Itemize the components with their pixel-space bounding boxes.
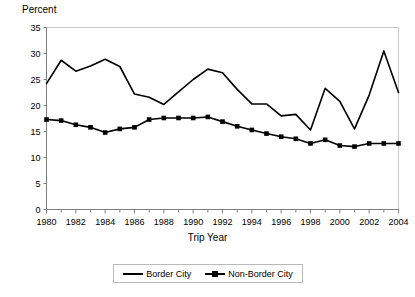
x-tick-label: 1998 bbox=[300, 217, 320, 227]
data-point-marker bbox=[103, 130, 108, 135]
x-axis-title: Trip Year bbox=[0, 232, 415, 243]
data-point-marker bbox=[74, 122, 79, 127]
y-tick-label: 15 bbox=[30, 127, 40, 137]
data-point-marker bbox=[118, 127, 123, 132]
x-tick-label: 2002 bbox=[359, 217, 379, 227]
x-tick-label: 1980 bbox=[36, 217, 56, 227]
x-tick-label: 1992 bbox=[212, 217, 232, 227]
y-tick-label: 10 bbox=[30, 153, 40, 163]
data-series-group bbox=[44, 51, 401, 149]
y-tick-label: 30 bbox=[30, 49, 40, 59]
data-point-marker bbox=[44, 117, 49, 122]
data-point-marker bbox=[264, 131, 269, 136]
legend-line-icon bbox=[123, 269, 143, 278]
series-line-border-city bbox=[47, 51, 399, 130]
data-point-marker bbox=[59, 118, 64, 123]
y-tick-label: 20 bbox=[30, 101, 40, 111]
y-tick-label: 0 bbox=[35, 205, 40, 215]
legend-item-non-border-city: Non-Border City bbox=[205, 269, 293, 279]
x-tick-label: 2000 bbox=[330, 217, 350, 227]
legend-item-border-city: Border City bbox=[123, 269, 191, 279]
y-tick-label: 5 bbox=[35, 179, 40, 189]
x-tick-label: 1982 bbox=[66, 217, 86, 227]
data-point-marker bbox=[250, 128, 255, 133]
x-tick-label: 2004 bbox=[388, 217, 408, 227]
data-point-marker bbox=[235, 124, 240, 129]
data-point-marker bbox=[206, 115, 211, 120]
data-point-marker bbox=[191, 116, 196, 121]
y-tick-label: 35 bbox=[30, 23, 40, 33]
x-tick-label: 1984 bbox=[95, 217, 115, 227]
gridlines-group bbox=[47, 28, 399, 210]
legend-label-non-border-city: Non-Border City bbox=[228, 269, 293, 279]
y-tick-label: 25 bbox=[30, 75, 40, 85]
x-tick-label: 1994 bbox=[242, 217, 262, 227]
data-point-marker bbox=[396, 141, 401, 146]
data-point-marker bbox=[147, 117, 152, 122]
data-point-marker bbox=[176, 116, 181, 121]
chart-container: Percent 05101520253035 19801982198419861… bbox=[0, 0, 415, 297]
x-tick-label: 1986 bbox=[124, 217, 144, 227]
data-point-marker bbox=[382, 141, 387, 146]
legend-line-marker-icon bbox=[205, 269, 225, 278]
x-tick-label: 1990 bbox=[183, 217, 203, 227]
data-point-marker bbox=[308, 141, 313, 146]
data-point-marker bbox=[88, 125, 93, 130]
chart-legend: Border City Non-Border City bbox=[113, 264, 303, 283]
y-axis-ticks: 05101520253035 bbox=[30, 23, 46, 215]
legend-label-border-city: Border City bbox=[146, 269, 191, 279]
data-point-marker bbox=[279, 134, 284, 139]
data-point-marker bbox=[338, 143, 343, 148]
axis-lines-group bbox=[47, 28, 399, 210]
data-point-marker bbox=[294, 136, 299, 141]
data-point-marker bbox=[323, 138, 328, 143]
data-point-marker bbox=[352, 144, 357, 149]
data-point-marker bbox=[162, 116, 167, 121]
data-point-marker bbox=[367, 141, 372, 146]
x-axis-ticks: 1980198219841986198819901992199419961998… bbox=[36, 210, 408, 227]
data-point-marker bbox=[132, 125, 137, 130]
x-tick-label: 1996 bbox=[271, 217, 291, 227]
x-tick-label: 1988 bbox=[154, 217, 174, 227]
chart-plot-area: 05101520253035 1980198219841986198819901… bbox=[0, 0, 415, 297]
data-point-marker bbox=[220, 119, 225, 124]
